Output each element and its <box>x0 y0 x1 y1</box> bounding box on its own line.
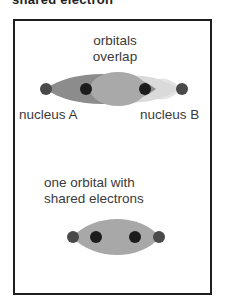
electron-b <box>139 83 151 95</box>
shared-title-line1: one orbital with <box>44 175 174 191</box>
electron-right <box>129 231 141 243</box>
shared-title-line2: shared electrons <box>44 191 174 207</box>
nucleus-a <box>40 83 52 95</box>
nucleus-b-label: nucleus B <box>140 107 212 123</box>
nucleus-left <box>67 231 79 243</box>
nucleus-right <box>153 231 165 243</box>
electron-a <box>80 83 92 95</box>
nucleus-b <box>176 83 188 95</box>
overlap-region <box>90 72 146 106</box>
nucleus-a-label: nucleus A <box>19 107 91 123</box>
orbital-diagram <box>0 0 227 301</box>
shared-orbital <box>72 219 160 255</box>
electron-left <box>90 231 102 243</box>
